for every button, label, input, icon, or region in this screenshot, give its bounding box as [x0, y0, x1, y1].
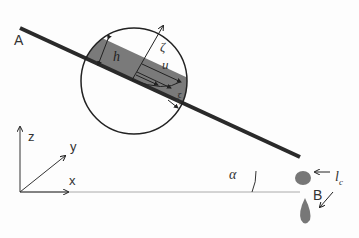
label-B: B: [313, 188, 322, 202]
label-u: u: [162, 58, 169, 71]
label-alpha: α: [229, 168, 236, 182]
label-lc-sub: c: [339, 177, 343, 187]
label-xi: ξ: [176, 91, 182, 104]
label-h: h: [113, 50, 120, 64]
label-x: x: [69, 174, 76, 187]
diagram-graphics: [0, 0, 359, 238]
label-lc: lc: [335, 170, 343, 187]
label-A: A: [14, 33, 23, 47]
diagram: A h ζ u ξ z y x α B lc: [0, 0, 359, 238]
falling-drop: [300, 198, 310, 224]
alpha-arc: [252, 171, 256, 192]
edge-drop: [295, 171, 311, 185]
label-zeta: ζ: [160, 40, 165, 53]
label-z: z: [28, 130, 35, 143]
liquid-film: [20, 0, 300, 158]
label-y: y: [70, 140, 77, 153]
